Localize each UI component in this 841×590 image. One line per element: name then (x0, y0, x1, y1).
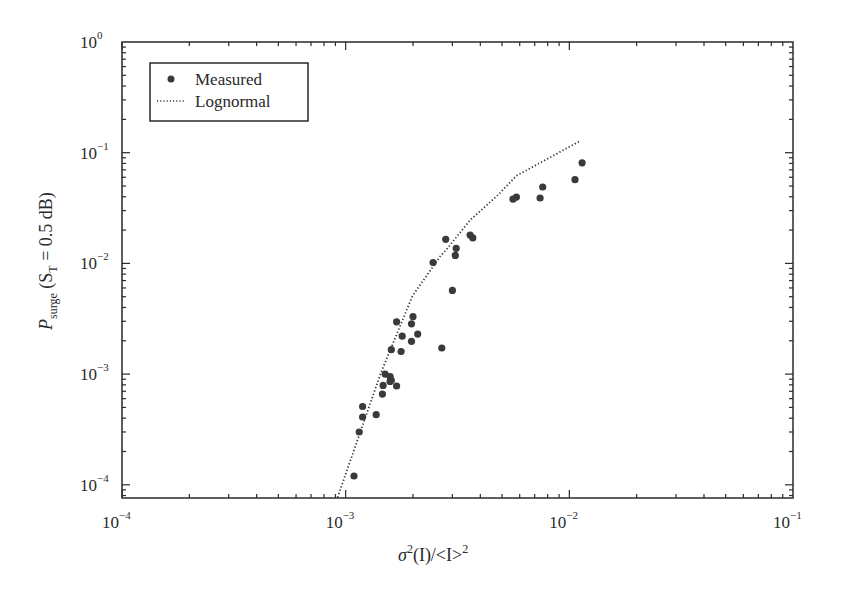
measured-point (379, 391, 386, 398)
legend-label-lognormal: Lognormal (195, 92, 271, 111)
legend-dot-icon (168, 76, 175, 83)
measured-point (453, 245, 460, 252)
lognormal-line (338, 141, 581, 498)
x-title-sup2: 2 (462, 542, 468, 556)
y-title-sub: surge (46, 293, 60, 319)
plot-area (338, 141, 586, 498)
y-tick-label: 10−3 (80, 361, 109, 384)
x-tick-labels: 10−410−310−210−1 (102, 509, 802, 532)
legend: Measured Lognormal (150, 63, 308, 121)
y-tick-label: 10−4 (80, 472, 109, 495)
measured-point (537, 194, 544, 201)
measured-point (449, 287, 456, 294)
measured-point (399, 333, 406, 340)
y-tick-label: 10−1 (80, 140, 109, 163)
y-tick-label: 10−2 (80, 250, 109, 273)
measured-point (408, 320, 415, 327)
x-tick-label: 10−4 (102, 509, 131, 532)
measured-point (513, 194, 520, 201)
measured-point (350, 472, 357, 479)
y-title-close: = 0.5 dB) (36, 192, 57, 265)
y-tick-labels: 10010−110−210−310−4 (80, 29, 109, 495)
x-tick-label: 10−2 (549, 509, 578, 532)
measured-point (380, 382, 387, 389)
y-title-open: (S (36, 273, 57, 294)
measured-point (442, 236, 449, 243)
measured-point (388, 346, 395, 353)
x-axis-title: σ2(I)/<I>2 (398, 542, 468, 566)
measured-point (438, 344, 445, 351)
legend-label-measured: Measured (195, 70, 263, 89)
chart: 10−410−310−210−1 10010−110−210−310−4 σ2(… (0, 0, 841, 590)
measured-point (393, 382, 400, 389)
x-tick-label: 10−3 (326, 509, 355, 532)
measured-point (387, 378, 394, 385)
measured-point (414, 331, 421, 338)
measured-point (452, 252, 459, 259)
measured-point (398, 348, 405, 355)
measured-point (373, 411, 380, 418)
measured-point (393, 318, 400, 325)
x-title-rest: (I)/<I> (413, 545, 462, 566)
measured-point (408, 338, 415, 345)
y-axis-title: Psurge (ST = 0.5 dB) (36, 192, 60, 331)
measured-point (579, 159, 586, 166)
y-title-p: P (36, 319, 56, 331)
x-tick-label: 10−1 (773, 509, 802, 532)
measured-point (409, 313, 416, 320)
measured-point (539, 183, 546, 190)
measured-point (359, 403, 366, 410)
y-tick-label: 100 (80, 29, 103, 52)
measured-point (571, 176, 578, 183)
measured-point (356, 428, 363, 435)
measured-point (469, 234, 476, 241)
